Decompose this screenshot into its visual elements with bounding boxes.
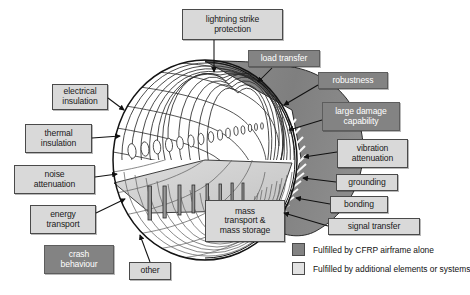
- legend-swatch-light: [292, 262, 305, 275]
- callout-crash-behaviour[interactable]: crash behaviour: [44, 245, 114, 274]
- cabin-windows: [127, 123, 263, 159]
- callout-robustness[interactable]: robustness: [318, 72, 388, 89]
- legend-row-legend-cfrp-alone: Fulfilled by CFRP airframe alone: [292, 243, 470, 256]
- callout-grounding[interactable]: grounding: [336, 174, 398, 191]
- callout-large-damage-capability[interactable]: large damage capability: [322, 102, 400, 131]
- legend: Fulfilled by CFRP airframe aloneFulfille…: [292, 243, 470, 281]
- callout-bonding[interactable]: bonding: [330, 196, 388, 213]
- legend-label: Fulfilled by CFRP airframe alone: [313, 245, 434, 255]
- callout-signal-transfer[interactable]: signal transfer: [328, 218, 420, 235]
- callout-noise-attenuation[interactable]: noise attenuation: [14, 165, 95, 194]
- callout-mass-transport-and-storage[interactable]: mass transport & mass storage: [205, 200, 285, 242]
- callout-vibration-attenuation[interactable]: vibration attenuation: [337, 139, 408, 168]
- callout-other[interactable]: other: [129, 262, 171, 280]
- callout-lightning-strike-protection[interactable]: lightning strike protection: [182, 9, 283, 40]
- legend-swatch-dark: [292, 243, 305, 256]
- legend-row-legend-additional: Fulfilled by additional elements or syst…: [292, 262, 470, 275]
- callout-energy-transport[interactable]: energy transport: [30, 205, 96, 234]
- callout-electrical-insulation[interactable]: electrical insulation: [52, 84, 108, 110]
- callout-thermal-insulation[interactable]: thermal insulation: [25, 124, 92, 153]
- callout-load-transfer[interactable]: load transfer: [248, 50, 320, 67]
- legend-label: Fulfilled by additional elements or syst…: [313, 264, 470, 274]
